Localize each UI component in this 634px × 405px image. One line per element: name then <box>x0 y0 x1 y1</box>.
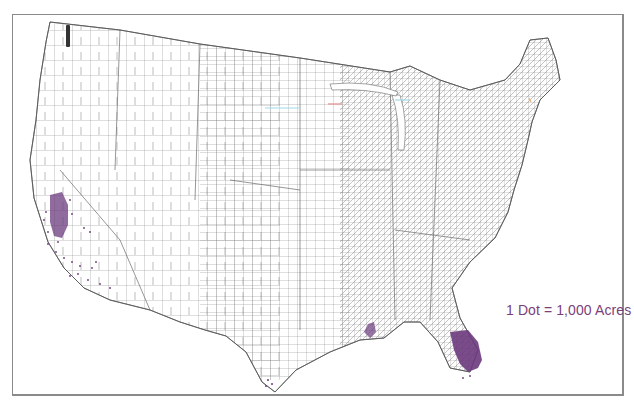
dot-cluster-washington <box>66 25 70 47</box>
dot-density-legend: 1 Dot = 1,000 Acres <box>506 302 631 318</box>
us-county-map <box>0 0 634 405</box>
conterminous-us <box>20 20 580 400</box>
plains-counties <box>200 20 350 380</box>
